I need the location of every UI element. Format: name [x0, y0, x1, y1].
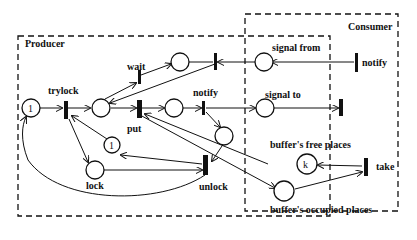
label-notify-consumer: notify — [362, 57, 387, 68]
label-buffer-occupied: buffer's occupied places — [270, 204, 372, 215]
label-trylock: trylock — [48, 85, 79, 96]
label-signal-from: signal from — [272, 42, 321, 53]
lock-token: 1 — [109, 140, 114, 151]
place-signal-to — [256, 99, 274, 117]
place-buffer-occupied — [274, 181, 294, 201]
transition-take — [364, 158, 368, 176]
start-token: 1 — [28, 103, 33, 114]
place-signal-from — [255, 53, 273, 71]
transition-unlock — [203, 155, 208, 175]
transition-blocked — [214, 53, 217, 70]
transition-put — [137, 100, 142, 118]
label-signal-to: signal to — [265, 89, 301, 100]
label-notify-producer: notify — [193, 87, 218, 98]
transition-notify-consumer — [355, 53, 358, 72]
label-lock: lock — [86, 180, 104, 191]
label-buffer-free: buffer's free places — [270, 139, 351, 150]
place-after-notify — [215, 127, 233, 145]
consumer-label: Consumer — [348, 21, 393, 32]
place-after-put — [165, 99, 183, 117]
transition-signal-to-sink — [339, 99, 343, 116]
transition-wait — [138, 70, 141, 84]
producer-label: Producer — [25, 38, 65, 49]
buffer-free-token: k — [303, 159, 308, 170]
transition-trylock — [64, 101, 68, 119]
place-wait — [171, 53, 189, 71]
label-put: put — [127, 123, 142, 134]
transition-notify-producer — [202, 101, 205, 115]
place-after-trylock — [92, 99, 110, 117]
label-wait: wait — [127, 61, 146, 72]
label-take: take — [376, 161, 395, 172]
label-unlock: unlock — [199, 181, 228, 192]
place-lock — [86, 161, 104, 179]
petri-net-diagram: Producer Consumer — [0, 0, 417, 240]
